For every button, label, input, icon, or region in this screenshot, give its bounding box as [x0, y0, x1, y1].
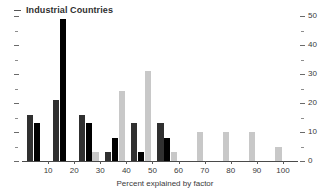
bar-series-3-bin-100: [275, 147, 281, 162]
bar-series-3-bin-90: [249, 132, 255, 161]
bar-series-2-bin-10: [34, 123, 40, 161]
x-tick-label-70: 70: [200, 166, 209, 175]
x-tick-40: [126, 161, 127, 164]
y-tick-label-50: 50: [308, 12, 317, 20]
bar-series-3-bin-70: [197, 132, 203, 161]
y-tick-left-50: [14, 16, 19, 17]
y-tick-label-0: 0: [308, 157, 312, 165]
y-tick-left-minor-35: [15, 60, 18, 61]
bar-series-1-bin-40: [105, 152, 111, 161]
x-tick-70: [205, 161, 206, 164]
bar-series-3-bin-30: [92, 152, 98, 161]
x-tick-100: [283, 161, 284, 164]
chart-figure: Industrial Countries 01020304050 1020304…: [0, 0, 330, 196]
bar-series-2-bin-30: [86, 123, 92, 161]
chart-title: Industrial Countries: [26, 5, 113, 15]
y-tick-left-40: [14, 45, 19, 46]
x-tick-20: [74, 161, 75, 164]
y-tick-right-minor-25: [301, 89, 304, 90]
x-tick-label-20: 20: [70, 166, 79, 175]
y-tick-left-10: [14, 132, 19, 133]
bar-series-3-bin-50: [145, 71, 151, 161]
bar-series-1-bin-20: [53, 100, 59, 161]
bar-series-1-bin-10: [27, 115, 33, 161]
x-tick-80: [231, 161, 232, 164]
y-tick-right-0: [300, 161, 305, 162]
bar-series-2-bin-20: [60, 19, 66, 161]
x-tick-label-30: 30: [96, 166, 105, 175]
bar-series-1-bin-60: [157, 123, 163, 161]
y-tick-left-minor-15: [15, 118, 18, 119]
y-tick-left-30: [14, 74, 19, 75]
y-tick-left-minor-45: [15, 31, 18, 32]
y-tick-left-20: [14, 103, 19, 104]
y-tick-label-10: 10: [308, 128, 317, 136]
y-tick-left-minor-5: [15, 147, 18, 148]
bar-series-3-bin-60: [171, 152, 177, 161]
y-tick-label-30: 30: [308, 70, 317, 78]
y-tick-right-20: [300, 103, 305, 104]
x-tick-label-100: 100: [276, 166, 289, 175]
y-tick-right-minor-5: [301, 147, 304, 148]
x-tick-label-40: 40: [122, 166, 131, 175]
x-tick-label-50: 50: [148, 166, 157, 175]
x-tick-90: [257, 161, 258, 164]
y-tick-right-50: [300, 16, 305, 17]
bar-series-2-bin-50: [138, 152, 144, 161]
x-tick-label-80: 80: [226, 166, 235, 175]
y-tick-right-minor-45: [301, 31, 304, 32]
y-tick-left-minor-25: [15, 89, 18, 90]
chart-title-row: Industrial Countries: [14, 5, 113, 15]
x-tick-label-90: 90: [252, 166, 261, 175]
title-marker-dash: [14, 10, 21, 11]
y-tick-right-30: [300, 74, 305, 75]
x-tick-10: [48, 161, 49, 164]
y-tick-label-40: 40: [308, 41, 317, 49]
y-tick-left-0: [14, 161, 19, 162]
bar-series-1-bin-50: [131, 123, 137, 161]
bar-series-2-bin-60: [164, 138, 170, 161]
bar-series-2-bin-40: [112, 138, 118, 161]
x-tick-30: [100, 161, 101, 164]
x-tick-label-60: 60: [174, 166, 183, 175]
y-tick-right-40: [300, 45, 305, 46]
x-tick-60: [179, 161, 180, 164]
y-tick-label-20: 20: [308, 99, 317, 107]
bar-series-3-bin-40: [119, 91, 125, 161]
x-tick-label-10: 10: [44, 166, 53, 175]
bar-series-1-bin-30: [79, 115, 85, 161]
y-tick-right-10: [300, 132, 305, 133]
x-axis-caption: Percent explained by factor: [0, 179, 330, 188]
y-tick-right-minor-15: [301, 118, 304, 119]
x-tick-50: [152, 161, 153, 164]
bar-series-3-bin-80: [223, 132, 229, 161]
y-tick-right-minor-35: [301, 60, 304, 61]
